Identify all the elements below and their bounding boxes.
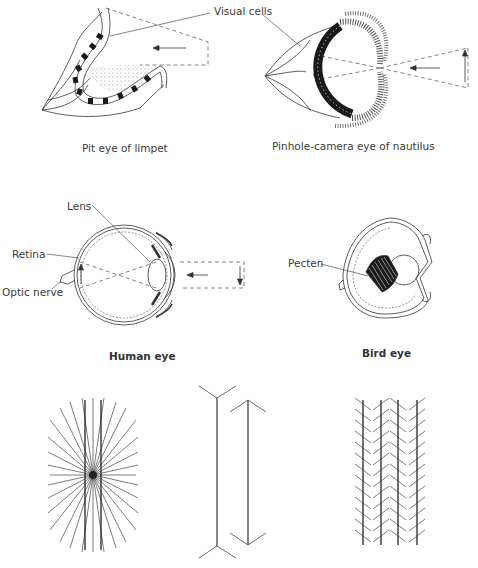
zollner-illusion-drawing [355, 398, 425, 545]
retina-label: Retina [12, 248, 45, 260]
limpet-eye-drawing [42, 8, 210, 117]
diagram-canvas [0, 0, 478, 568]
visual-cells-label: Visual cells [214, 5, 272, 17]
muller-lyer-illusion-drawing [199, 386, 266, 558]
bird-eye-drawing [321, 218, 432, 318]
human-eye-caption: Human eye [109, 350, 176, 362]
hering-illusion-drawing [48, 398, 138, 552]
bird-eye-caption: Bird eye [362, 347, 411, 359]
nautilus-caption: Pinhole-camera eye of nautilus [272, 140, 435, 152]
nautilus-eye-drawing [262, 13, 468, 126]
lens-label: Lens [67, 200, 91, 212]
optic-nerve-label: Optic nerve [2, 286, 63, 298]
limpet-caption: Pit eye of limpet [82, 142, 168, 154]
human-eye-drawing [47, 205, 244, 325]
pecten-label: Pecten [288, 257, 323, 269]
